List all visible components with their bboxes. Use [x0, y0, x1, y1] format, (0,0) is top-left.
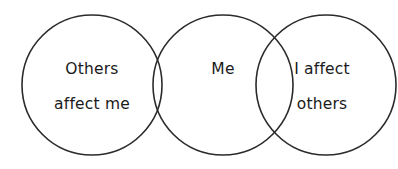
venn-diagram: Others affect me Me I affect others	[0, 0, 398, 169]
circle-right-label-line1: I affect	[258, 52, 386, 87]
circle-right-label: I affect others	[258, 52, 386, 122]
circle-left-label-line1: Others	[22, 52, 162, 87]
circle-left-label: Others affect me	[22, 52, 162, 122]
circle-left-label-line2: affect me	[22, 87, 162, 122]
circle-right-label-line2: others	[258, 87, 386, 122]
